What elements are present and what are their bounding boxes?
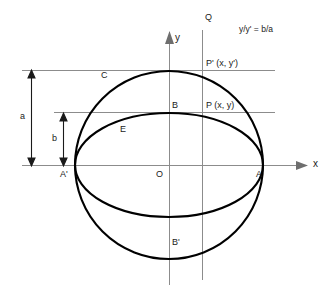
x-axis-label: x [313,159,318,169]
dimension-b-arrow-up [60,113,67,121]
x-axis-arrowhead [296,161,308,170]
dimension-a-arrow-down [28,158,35,166]
dimension-a [28,70,35,166]
dimension-label-a: a [20,112,25,121]
y-axis-label: y [175,33,180,43]
vertex-label-b: B [172,101,178,110]
diagram-canvas [0,0,334,300]
dimension-a-arrow-up [28,70,35,78]
geometry-diagram: y x Q y/y' = b/a P' (x, y') P (x, y) C E… [0,0,334,300]
vertex-label-a: A [256,170,262,179]
y-axis-arrowhead [165,31,174,44]
circle-label-c: C [101,71,108,80]
ordinate-line-label-q: Q [205,13,212,22]
relation-formula: y/y' = b/a [239,25,273,34]
dimension-b-arrow-down [60,158,67,166]
origin-label: O [156,170,163,179]
ellipse-label-e: E [120,125,126,134]
point-label-p: P (x, y) [206,101,234,110]
vertex-label-b-prime: B' [172,238,180,247]
point-label-p-prime: P' (x, y') [206,59,238,68]
vertex-label-a-prime: A' [60,170,68,179]
dimension-label-b: b [52,134,57,143]
dimension-b [60,113,67,166]
